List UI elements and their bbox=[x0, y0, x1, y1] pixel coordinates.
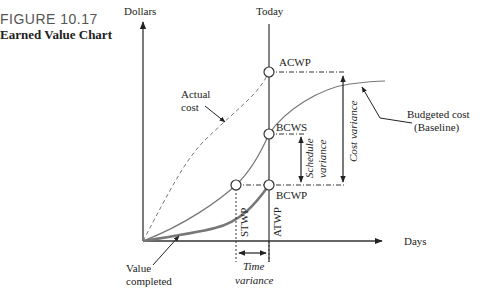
x-axis-label: Days bbox=[404, 235, 427, 247]
value-completed-label-1: Value bbox=[126, 262, 151, 274]
acwp-marker bbox=[264, 67, 274, 77]
actual-cost-label-1: Actual bbox=[181, 88, 210, 100]
time-variance-label-2: variance bbox=[235, 274, 274, 286]
budgeted-cost-label-1: Budgeted cost bbox=[407, 108, 470, 120]
stwp-marker bbox=[231, 180, 241, 190]
schedule-variance-label-2: variance bbox=[316, 139, 328, 178]
earned-value-chart: Dollars Days Today Cost variance Schedul… bbox=[0, 0, 495, 298]
time-variance-label-1: Time bbox=[243, 260, 265, 272]
bcwp-label: BCWP bbox=[276, 189, 307, 201]
y-axis-label: Dollars bbox=[124, 5, 156, 17]
actual-cost-leader bbox=[205, 106, 225, 122]
budgeted-cost-label-2: (Baseline) bbox=[414, 121, 460, 134]
bcwp-marker bbox=[264, 180, 274, 190]
cost-variance-label: Cost variance bbox=[347, 100, 359, 162]
schedule-variance-label-1: Schedule bbox=[303, 138, 315, 178]
stwp-label: STWP bbox=[238, 208, 250, 237]
atwp-label: ATWP bbox=[271, 207, 283, 237]
acwp-label: ACWP bbox=[279, 56, 311, 68]
bcws-marker bbox=[264, 129, 274, 139]
budgeted-cost-leader bbox=[362, 87, 412, 123]
value-completed-label-2: completed bbox=[126, 275, 172, 287]
actual-cost-label-2: cost bbox=[181, 101, 199, 113]
bcws-label: BCWS bbox=[276, 121, 307, 133]
today-label: Today bbox=[256, 5, 284, 17]
